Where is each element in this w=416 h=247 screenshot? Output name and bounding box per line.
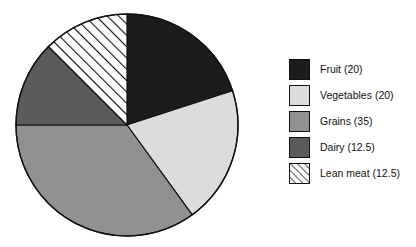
legend-label-fruit: Fruit (20) (320, 64, 363, 75)
legend-item-fruit[interactable]: Fruit (20) (289, 56, 416, 82)
legend-swatch-dairy (289, 137, 310, 158)
legend-label-lean-meat: Lean meat (12.5) (320, 168, 400, 179)
legend-item-vegetables[interactable]: Vegetables (20) (289, 82, 416, 108)
legend-swatch-fruit (289, 59, 310, 80)
legend-label-dairy: Dairy (12.5) (320, 142, 375, 153)
legend-item-lean-meat[interactable]: Lean meat (12.5) (289, 160, 416, 186)
legend-swatch-vegetables (289, 85, 310, 106)
legend-label-grains: Grains (35) (320, 116, 373, 127)
pie-chart-figure: Fruit (20) Vegetables (20) Grains (35) D… (0, 0, 416, 247)
hatch-pattern-icon (290, 164, 310, 184)
legend-swatch-grains (289, 111, 310, 132)
legend-item-grains[interactable]: Grains (35) (289, 108, 416, 134)
legend-item-dairy[interactable]: Dairy (12.5) (289, 134, 416, 160)
legend-label-vegetables: Vegetables (20) (320, 90, 394, 101)
legend-swatch-lean-meat (289, 163, 310, 184)
legend: Fruit (20) Vegetables (20) Grains (35) D… (289, 56, 416, 186)
